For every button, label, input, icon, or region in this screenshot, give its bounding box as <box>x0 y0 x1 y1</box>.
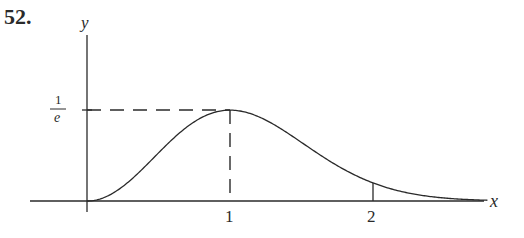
function-curve <box>87 110 487 201</box>
y-tick-label-denominator: e <box>54 110 60 125</box>
x-tick-label-2: 2 <box>367 207 376 226</box>
x-axis-label: x <box>489 191 498 211</box>
x-tick-label-1: 1 <box>225 207 234 226</box>
y-tick-label-numerator: 1 <box>55 92 62 107</box>
y-axis-label: y <box>79 13 89 32</box>
function-graph: y x 1 2 1 e <box>0 0 524 238</box>
